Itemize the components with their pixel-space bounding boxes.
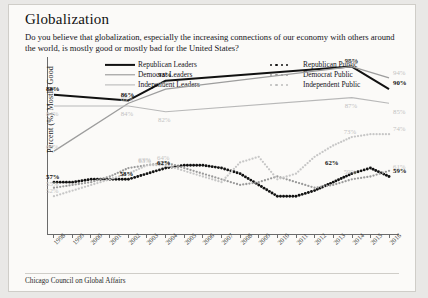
series-dot (183, 164, 186, 167)
series-dot (292, 180, 294, 182)
series-dot (171, 166, 173, 168)
series-dot (117, 172, 119, 174)
series-dot (146, 164, 148, 166)
series-dot (248, 182, 250, 184)
series-dot (211, 175, 213, 177)
series-dot (282, 195, 285, 198)
series-dot (174, 164, 176, 166)
series-dot (196, 171, 198, 173)
series-dot (68, 184, 70, 186)
series-dot (202, 175, 204, 177)
series-dot (340, 177, 343, 180)
series-dot (338, 182, 340, 184)
series-dot (276, 195, 279, 198)
plot-area: Percent (%) Mostly Good 88%86%93%98%90%6… (47, 57, 399, 235)
series-dot (286, 175, 288, 177)
series-dot (307, 191, 310, 194)
series-dot (205, 173, 207, 175)
data-label: 55% (46, 180, 58, 187)
series-dot (78, 188, 80, 190)
series-dot (211, 178, 213, 180)
series-dot (298, 194, 301, 197)
series-dot (276, 178, 278, 180)
series-dot (130, 166, 132, 168)
series-dot (360, 177, 362, 179)
data-label: 64% (157, 154, 169, 161)
series-dot (56, 194, 58, 196)
series-dot (214, 166, 217, 169)
series-dot (335, 183, 337, 185)
series-dot (285, 195, 288, 198)
series-dot (273, 193, 276, 196)
series-dot (149, 164, 151, 166)
data-label: 82% (158, 116, 170, 123)
series-dot (337, 142, 339, 144)
series-dot (78, 183, 80, 185)
series-dot (99, 178, 101, 180)
series-dot (366, 168, 369, 171)
series-dot (133, 166, 135, 168)
series-dot (242, 183, 244, 185)
series-dot (248, 158, 250, 160)
series-dot (192, 173, 194, 175)
series-dot (307, 185, 309, 187)
series-dot (313, 189, 316, 192)
series-dot (143, 165, 145, 167)
series-dot (99, 181, 101, 183)
series-line (54, 98, 389, 112)
series-dot (357, 135, 359, 137)
series-dot (267, 178, 269, 180)
series-dot (327, 148, 329, 150)
data-label: 85% (393, 108, 405, 115)
series-dot (340, 141, 342, 143)
series-dot (262, 161, 264, 163)
series-dot (271, 192, 274, 195)
series-dot (84, 182, 86, 184)
series-dot (84, 179, 87, 182)
series-dot (180, 169, 182, 171)
series-dot (227, 174, 229, 176)
series-dot (183, 167, 185, 169)
series-dot (332, 184, 334, 186)
series-dot (264, 179, 266, 181)
series-dot (369, 175, 371, 177)
series-dot (118, 178, 121, 181)
series-dot (329, 146, 331, 148)
series-dot (217, 177, 219, 179)
series-dot (90, 184, 92, 186)
series-dot (239, 184, 241, 186)
series-dot (139, 174, 142, 177)
series-dot (343, 140, 345, 142)
data-label: 87% (345, 102, 357, 109)
series-dot (183, 170, 185, 172)
series-dot (75, 188, 77, 190)
series-dot (360, 169, 363, 172)
series-dot (174, 167, 176, 169)
series-dot (316, 154, 318, 156)
series-dot (258, 156, 260, 158)
series-dot (201, 164, 204, 167)
series-dot (310, 190, 313, 193)
series-dot (214, 176, 216, 178)
series-dot (357, 177, 359, 179)
series-dot (264, 163, 266, 165)
series-dot (354, 178, 356, 180)
series-dot (114, 173, 116, 175)
chart-lines (48, 57, 399, 234)
data-label: 85% (121, 95, 133, 102)
series-dot (254, 157, 256, 159)
series-dot (231, 170, 233, 172)
series-dot (96, 179, 98, 181)
series-dot (257, 184, 260, 187)
series-dot (127, 178, 130, 181)
series-dot (388, 133, 390, 135)
series-dot (217, 180, 219, 182)
series-dot (223, 168, 226, 171)
series-dot (295, 173, 297, 175)
series-dot (344, 180, 346, 182)
series-dot (341, 181, 343, 183)
series-dot (245, 183, 247, 185)
series-dot (62, 192, 64, 194)
series-dot (317, 186, 319, 188)
chart-card: Globalization Do you believe that global… (8, 4, 416, 292)
